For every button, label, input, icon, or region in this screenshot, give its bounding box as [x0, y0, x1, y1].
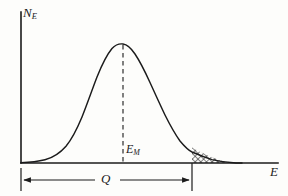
figure-canvas — [0, 0, 288, 196]
span-marker-label: Q — [101, 172, 110, 185]
x-axis-label-base: E — [270, 164, 278, 179]
span-marker-label-base: Q — [101, 171, 110, 186]
x-axis-label: E — [270, 165, 278, 178]
energy-distribution-figure: NE E EM Q — [0, 0, 288, 196]
y-axis-label-subscript: E — [32, 11, 37, 21]
peak-marker-label: EM — [126, 143, 140, 157]
peak-marker-label-subscript: M — [133, 148, 140, 157]
y-axis-label: NE — [23, 6, 37, 20]
y-axis-label-base: N — [23, 5, 32, 20]
